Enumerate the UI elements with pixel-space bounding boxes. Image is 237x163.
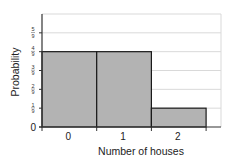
x-tick-label-2: 2 (175, 131, 181, 142)
histogram-chart: 01929394959 012 Number of houses Probabi… (0, 0, 237, 163)
y-tick-denominator: 9 (31, 70, 34, 76)
y-tick-numerator: 5 (31, 26, 34, 32)
x-axis-title: Number of houses (98, 145, 184, 157)
y-tick-denominator: 9 (31, 51, 34, 57)
y-tick-numerator: 1 (31, 102, 34, 108)
y-tick-denominator: 9 (31, 108, 34, 114)
y-tick-labels: 01929394959 (30, 26, 36, 132)
y-tick-numerator: 2 (31, 83, 34, 89)
y-axis-title: Probability (9, 47, 21, 97)
y-tick-numerator: 3 (31, 64, 34, 70)
x-tick-label-0: 0 (66, 131, 72, 142)
y-tick-label: 0 (30, 122, 36, 133)
bar-0 (42, 52, 97, 127)
bar-2 (151, 108, 206, 127)
y-tick-denominator: 9 (31, 89, 34, 95)
y-tick-numerator: 4 (31, 45, 34, 51)
y-tick-denominator: 9 (31, 33, 34, 39)
x-tick-labels: 012 (66, 131, 181, 142)
bar-1 (97, 52, 152, 127)
x-tick-label-1: 1 (120, 131, 126, 142)
